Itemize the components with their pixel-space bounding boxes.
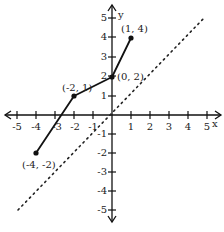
x-tick-label: -5: [12, 122, 22, 132]
y-tick-label: -2: [97, 148, 107, 158]
point-neg2-1: [71, 93, 76, 98]
x-tick-label: -2: [70, 122, 80, 132]
x-axis-label: x: [212, 119, 218, 129]
y-tick-label: 4: [101, 32, 107, 42]
x-tick-label: -4: [31, 122, 41, 132]
y-tick-label: -4: [97, 186, 107, 196]
point-neg4-neg2: [33, 150, 38, 155]
x-tick-label: 5: [204, 122, 210, 132]
x-axis: [5, 111, 221, 119]
y-tick-label: 5: [101, 13, 107, 23]
y-tick-label: 2: [101, 71, 107, 81]
x-tick-label: 4: [185, 122, 191, 132]
coordinate-plane: [0, 0, 224, 232]
y-tick-label: -1: [97, 129, 107, 139]
x-tick-label: 3: [166, 122, 172, 132]
point-label-neg4-neg2: (-4, -2): [22, 160, 56, 170]
point-label-0-2: (0, 2): [117, 72, 144, 82]
y-tick-label: 3: [101, 52, 107, 62]
point-0-2: [109, 74, 114, 79]
x-tick-label: 2: [147, 122, 153, 132]
y-tick-label: -5: [97, 205, 107, 215]
x-tick-label: 1: [128, 122, 134, 132]
y-axis-label: y: [118, 10, 124, 20]
y-tick-label: -3: [97, 167, 107, 177]
y-tick-label: 1: [101, 91, 107, 101]
point-label-neg2-1: (-2, 1): [62, 83, 92, 93]
x-tick-label: -3: [52, 122, 62, 132]
piecewise-line: [36, 38, 131, 153]
point-1-4: [128, 35, 133, 40]
data-points: [33, 35, 133, 155]
point-label-1-4: (1, 4): [121, 24, 148, 34]
